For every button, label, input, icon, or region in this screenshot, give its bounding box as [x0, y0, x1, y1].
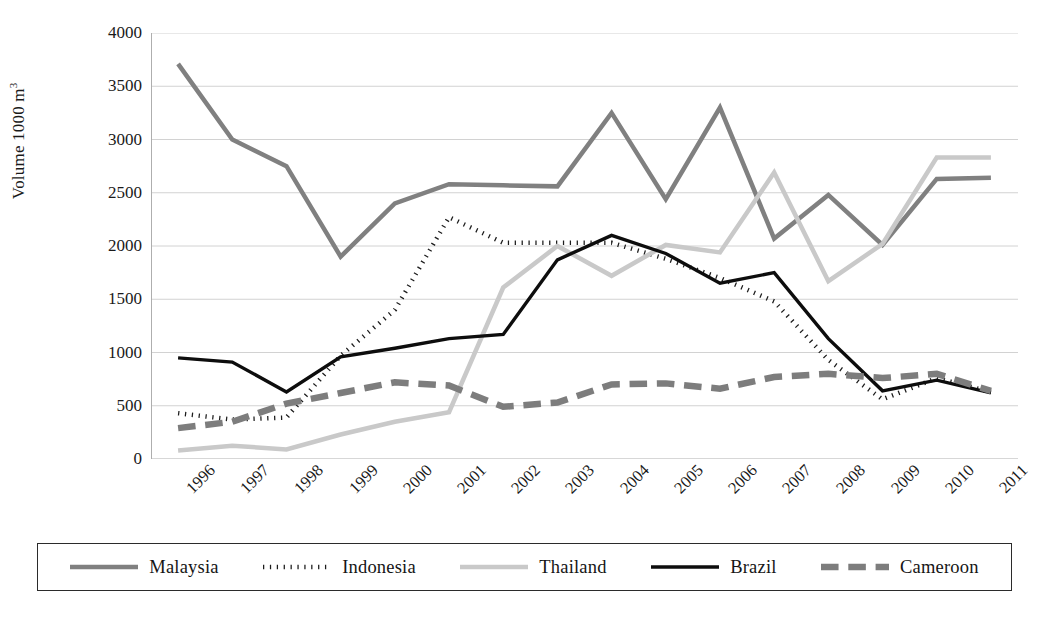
y-axis-title: Volume 1000 m3 [7, 31, 29, 251]
x-tick-label: 2009 [888, 462, 923, 497]
y-tick-label: 3500 [72, 77, 142, 94]
x-tick-label: 2007 [780, 462, 815, 497]
legend-item-thailand[interactable]: Thailand [460, 557, 606, 578]
legend-swatch-cameroon-icon [821, 560, 889, 574]
legend-swatch-brazil-icon [651, 560, 719, 574]
y-axis-title-text: Volume 1000 m [9, 88, 28, 199]
legend-item-brazil[interactable]: Brazil [651, 557, 776, 578]
chart-canvas [151, 33, 1018, 459]
legend-item-indonesia[interactable]: Indonesia [263, 557, 416, 578]
x-tick-labels: 1996199719981999200020012002200320042005… [151, 462, 1031, 532]
y-tick-label: 2000 [72, 237, 142, 254]
series-line-malaysia [178, 64, 991, 257]
x-tick-label: 2005 [671, 462, 706, 497]
y-tick-labels: 40003500300025002000150010005000 [68, 33, 142, 459]
x-tick-label: 2010 [942, 462, 977, 497]
y-tick-label: 4000 [72, 24, 142, 41]
series-line-thailand [178, 158, 991, 451]
x-tick-label: 2004 [617, 462, 652, 497]
legend-item-malaysia[interactable]: Malaysia [70, 557, 218, 578]
x-tick-label: 2002 [509, 462, 544, 497]
y-tick-label: 1000 [72, 344, 142, 361]
y-tick-label: 0 [72, 450, 142, 467]
x-tick-label: 1996 [184, 462, 219, 497]
x-tick-label: 2008 [834, 462, 869, 497]
y-tick-label: 3000 [72, 131, 142, 148]
x-tick-label: 2001 [455, 462, 490, 497]
legend-label: Malaysia [149, 557, 218, 578]
chart-figure: Volume 1000 m3 4000350030002500200015001… [0, 0, 1053, 621]
legend-label: Thailand [539, 557, 606, 578]
y-tick-label: 1500 [72, 290, 142, 307]
legend-swatch-malaysia-icon [70, 560, 138, 574]
y-tick-label: 2500 [72, 184, 142, 201]
y-axis-title-exponent: 3 [7, 83, 19, 89]
x-tick-label: 2011 [996, 462, 1031, 497]
legend-label: Brazil [730, 557, 776, 578]
y-tick-label: 500 [72, 397, 142, 414]
legend-label: Cameroon [900, 557, 979, 578]
legend-swatch-thailand-icon [460, 560, 528, 574]
legend-item-cameroon[interactable]: Cameroon [821, 557, 979, 578]
x-tick-label: 1998 [292, 462, 327, 497]
x-tick-label: 2006 [726, 462, 761, 497]
x-tick-label: 1997 [238, 462, 273, 497]
x-tick-label: 2003 [563, 462, 598, 497]
chart-legend: MalaysiaIndonesiaThailandBrazilCameroon [37, 543, 1012, 591]
legend-swatch-indonesia-icon [263, 560, 331, 574]
legend-label: Indonesia [342, 557, 416, 578]
series-lines [178, 64, 991, 451]
plot-area [151, 33, 1018, 459]
x-tick-label: 1999 [346, 462, 381, 497]
x-tick-label: 2000 [401, 462, 436, 497]
